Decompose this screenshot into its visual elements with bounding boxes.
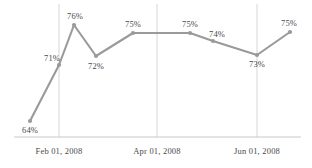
series-line	[30, 25, 290, 121]
data-value-label: 64%	[22, 126, 38, 135]
x-tick-label: Jun 01, 2008	[234, 147, 280, 156]
data-value-label: 72%	[88, 62, 104, 71]
data-point-marker	[131, 31, 135, 35]
data-point-marker	[28, 119, 32, 123]
data-value-label: 73%	[249, 60, 265, 69]
data-point-marker	[211, 39, 215, 43]
data-value-label: 75%	[125, 20, 141, 29]
data-point-marker	[72, 23, 76, 27]
chart-plot-area	[0, 0, 312, 168]
data-value-label: 71%	[44, 54, 60, 63]
data-point-marker	[94, 54, 98, 58]
data-value-label: 75%	[281, 19, 297, 28]
data-value-label: 74%	[209, 30, 225, 39]
x-tick-label: Feb 01, 2008	[35, 147, 82, 156]
data-value-label: 76%	[67, 12, 83, 21]
data-point-marker	[255, 53, 259, 57]
data-point-marker	[57, 63, 61, 67]
data-point-marker	[188, 31, 192, 35]
data-series-line	[30, 25, 290, 121]
data-point-marker	[288, 30, 292, 34]
line-chart: 64%71%76%72%75%75%74%73%75% Feb 01, 2008…	[0, 0, 312, 168]
data-point-markers	[28, 23, 292, 123]
x-tick-label: Apr 01, 2008	[133, 147, 181, 156]
data-value-label: 75%	[182, 20, 198, 29]
